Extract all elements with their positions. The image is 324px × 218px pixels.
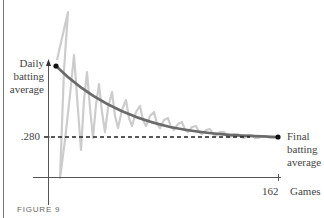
figure-caption-label: FIGURE 9 [17,205,60,214]
x-tick-label-162: 162 [262,185,279,198]
final-label-line: Final [287,130,321,143]
y-axis-label: Daily batting average [6,57,44,96]
x-axis-label: Games [290,185,321,198]
y-tick-label: .280 [10,130,40,143]
y-axis-label-line: batting [6,70,44,83]
final-dot [275,134,280,139]
final-label-line: batting [287,143,321,156]
y-axis-label-line: average [6,83,44,96]
final-label-line: average [287,156,321,169]
y-axis-label-line: Daily [6,57,44,70]
start-dot [53,63,58,68]
final-average-label: Final batting average [287,130,321,169]
y-axis-arrow-icon [46,59,51,66]
